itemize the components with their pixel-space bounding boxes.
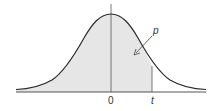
t-label: t [151,96,154,106]
p-label: p [153,26,159,36]
origin-label: 0 [108,96,114,106]
shaded-area [16,14,152,92]
